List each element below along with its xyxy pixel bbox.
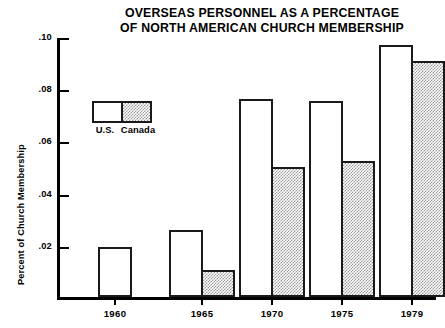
chart-title-line-2: OF NORTH AMERICAN CHURCH MEMBERSHIP [90,21,434,36]
chart-title-line-1: OVERSEAS PERSONNEL AS A PERCENTAGE [90,6,434,21]
x-axis-label-1975: 1975 [312,308,372,319]
y-axis-title-container: Percent of Church Membership [2,95,18,285]
plot-area: 1960 1965 1970 1975 1979 [57,38,436,300]
legend-swatch-canada[interactable] [121,101,152,123]
y-tick-label-0.04: .04 [26,189,52,199]
x-axis-label-1965: 1965 [172,308,232,319]
x-axis-label-1960: 1960 [85,308,145,319]
y-tick-mark-0.02 [60,247,69,249]
bar-us-1970[interactable] [239,99,273,297]
y-tick-mark-0.10 [60,38,69,40]
x-axis-label-1979: 1979 [382,308,442,319]
y-tick-label-0.06: .06 [26,136,52,146]
x-axis-label-1970: 1970 [242,308,302,319]
x-tick-mark-1975 [341,300,343,305]
y-tick-label-0.10: .10 [26,32,52,42]
y-tick-mark-0.04 [60,195,69,197]
bar-us-1965[interactable] [169,230,203,297]
bar-us-1979[interactable] [379,45,413,297]
legend-labels: U.S. Canada [90,124,156,135]
y-axis-line [57,38,60,300]
x-tick-mark-1960 [114,300,116,305]
y-tick-mark-0.06 [60,142,69,144]
legend-label-us: U.S. [90,124,120,135]
legend-swatches [92,101,154,123]
bar-canada-1970[interactable] [271,167,305,297]
x-tick-mark-1965 [201,300,203,305]
legend-swatch-us[interactable] [92,101,123,123]
bar-canada-1975[interactable] [341,161,375,297]
bar-canada-1979[interactable] [411,61,445,297]
chart-legend: U.S. Canada [92,101,154,135]
y-tick-label-0.08: .08 [26,84,52,94]
x-tick-mark-1979 [411,300,413,305]
y-tick-label-0.02: .02 [26,241,52,251]
y-tick-mark-0.08 [60,90,69,92]
y-axis-tick-labels: .10 .08 .06 .04 .02 [22,38,52,300]
chart-title: OVERSEAS PERSONNEL AS A PERCENTAGE OF NO… [90,6,434,35]
legend-label-canada: Canada [120,124,156,135]
bar-us-1960[interactable] [98,247,132,297]
bar-canada-1965[interactable] [201,270,235,297]
bar-us-1975[interactable] [309,101,343,297]
x-tick-mark-1970 [271,300,273,305]
